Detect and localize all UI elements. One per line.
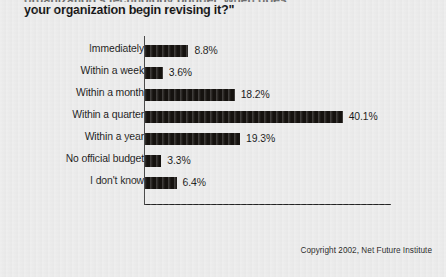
bar-track: 6.4%	[145, 177, 446, 189]
bar-category-label: I don't know	[14, 175, 144, 186]
bar-row: Within a quarter40.1%	[0, 106, 446, 128]
bar-value-label: 40.1%	[349, 111, 378, 123]
bar-category-label: Within a week	[14, 65, 144, 76]
bar-category-label: Within a month	[14, 87, 144, 98]
bar-track: 19.3%	[145, 133, 446, 145]
bar-track: 3.3%	[145, 155, 446, 167]
title-clipped-line: organization's technology budget, when d…	[24, 0, 424, 2]
bar-row: Within a week3.6%	[0, 62, 446, 84]
bar-row: Within a year19.3%	[0, 128, 446, 150]
bar-row: Within a month18.2%	[0, 84, 446, 106]
bar-track: 8.8%	[145, 45, 446, 57]
bar-category-label: Within a quarter	[14, 109, 144, 120]
bar-value-label: 19.3%	[246, 133, 275, 145]
bar-chart: Immediately8.8%Within a week3.6%Within a…	[0, 36, 446, 226]
bar-value-label: 6.4%	[183, 177, 206, 189]
bar-row: I don't know6.4%	[0, 172, 446, 194]
bar	[145, 45, 188, 57]
bar-category-label: Within a year	[14, 131, 144, 142]
bar-track: 18.2%	[145, 89, 446, 101]
title-clipped-text: organization's technology budget, when d…	[24, 0, 424, 2]
bar	[145, 111, 343, 123]
bar-value-label: 3.3%	[167, 155, 190, 167]
bar-rows: Immediately8.8%Within a week3.6%Within a…	[0, 40, 446, 194]
bar-row: No official budget3.3%	[0, 150, 446, 172]
bar-value-label: 18.2%	[241, 89, 270, 101]
bar	[145, 89, 235, 101]
bar-track: 3.6%	[145, 67, 446, 79]
page-title: your organization begin revising it?"	[24, 3, 234, 17]
bar-value-label: 8.8%	[194, 45, 217, 57]
bar-category-label: No official budget	[14, 153, 144, 164]
bar-row: Immediately8.8%	[0, 40, 446, 62]
bar-track: 40.1%	[145, 111, 446, 123]
x-axis-line	[144, 204, 391, 205]
bar-value-label: 3.6%	[169, 67, 192, 79]
bar	[145, 67, 163, 79]
bar	[145, 177, 177, 189]
copyright-notice: Copyright 2002, Net Future Institute	[300, 246, 432, 255]
bar	[145, 155, 161, 167]
bar	[145, 133, 240, 145]
bar-category-label: Immediately	[14, 43, 144, 54]
